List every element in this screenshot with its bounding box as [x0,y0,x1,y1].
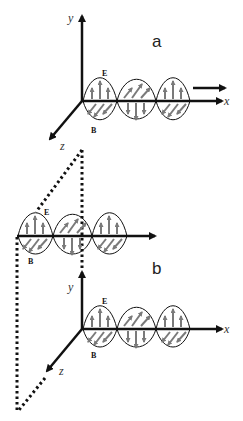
x-axis-label-b: x [224,322,229,337]
b-field-label-a: B [91,126,96,135]
em-wave-diagram [0,0,243,421]
y-axis-label-b: y [68,280,73,295]
b-field-label-b: B [91,351,96,360]
panel-a [50,16,225,139]
panel-middle-wave [17,213,155,255]
z-axis-label-b: z [59,364,64,379]
b-field-label-middle: B [28,257,33,266]
e-field-label-a: E [102,69,107,78]
y-axis-label-a: y [68,11,73,26]
z-axis-label-a: z [60,139,65,154]
z-axis-a [50,101,82,139]
panel-label-a: a [152,32,161,52]
x-axis-label-a: x [224,94,229,109]
panel-label-b: b [152,259,161,279]
e-field-label-b: E [102,297,107,306]
e-field-label-middle: E [44,208,49,217]
